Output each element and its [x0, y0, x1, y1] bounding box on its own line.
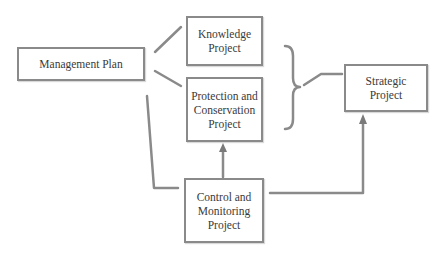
node-label: Strategic Project [366, 74, 407, 102]
node-control-monitoring-project: Control and Monitoring Project [184, 178, 264, 243]
connector-management-knowledge [155, 27, 181, 52]
node-protection-conservation-project: Protection and Conservation Project [186, 77, 263, 142]
arrow-control-strategic [270, 122, 363, 193]
connector-brace-strategic [304, 74, 342, 85]
node-management-plan: Management Plan [17, 47, 145, 81]
node-label: Management Plan [39, 57, 122, 71]
brace-icon [285, 46, 300, 129]
node-label: Knowledge Project [198, 27, 251, 55]
diagram-canvas: Management Plan Knowledge Project Protec… [0, 0, 444, 258]
node-knowledge-project: Knowledge Project [186, 16, 263, 66]
node-strategic-project: Strategic Project [344, 64, 428, 112]
connector-management-control [147, 96, 178, 188]
arrowhead-icon [219, 143, 227, 152]
connector-management-protection [155, 71, 181, 86]
node-label: Control and Monitoring Project [197, 190, 252, 232]
arrowhead-icon [359, 114, 367, 124]
node-label: Protection and Conservation Project [191, 89, 258, 131]
